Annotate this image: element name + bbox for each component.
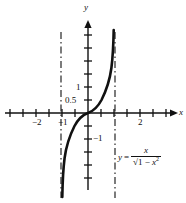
x-tick-label-neg2: −2 xyxy=(32,118,42,127)
equation-denominator: √1 − x2 xyxy=(131,157,161,167)
y-tick-label-1: 1 xyxy=(76,83,81,92)
equation-numerator: x xyxy=(140,146,152,156)
x-axis-label: x xyxy=(179,108,183,117)
radicand-exponent: 2 xyxy=(156,156,159,162)
equation-lhs: y xyxy=(118,152,122,162)
y-axis-label: y xyxy=(84,3,88,12)
graph-canvas xyxy=(0,0,186,203)
x-tick-label-2: 2 xyxy=(138,118,143,127)
y-tick-label-0point5: 0.5 xyxy=(65,96,76,105)
radicand-prefix: 1 − xyxy=(138,157,152,167)
y-tick-label-neg1: −1 xyxy=(93,134,103,143)
function-graph-figure: y x −2 −1 2 1 0.5 −1 y = x √1 − x2 xyxy=(0,0,186,203)
equation-equals-sign: = xyxy=(124,152,129,162)
x-tick-label-neg1: −1 xyxy=(58,118,68,127)
equation-annotation: y = x √1 − x2 xyxy=(118,146,161,167)
equation-fraction: x √1 − x2 xyxy=(131,146,161,167)
